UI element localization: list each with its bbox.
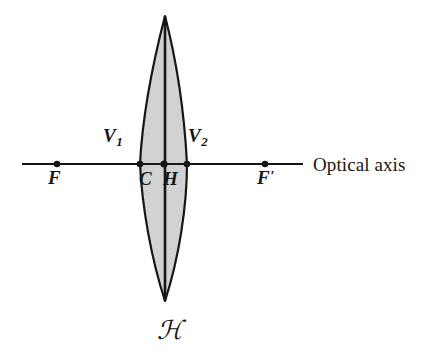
- point-dot-C: [160, 160, 167, 167]
- label-V1-subscript: 1: [116, 134, 123, 149]
- label-C-letter: C: [139, 168, 152, 189]
- label-center-C: C: [139, 169, 152, 188]
- diagram-canvas: [0, 0, 440, 359]
- label-vertex-v1: V1: [103, 126, 122, 145]
- label-principal-plane-script-h: ℋ: [157, 317, 183, 343]
- label-F-prime-letter: F: [257, 167, 270, 188]
- point-dot-V2: [184, 161, 191, 168]
- label-V2-subscript: 2: [201, 134, 208, 149]
- lens-shape: [140, 16, 187, 301]
- label-H-letter: H: [163, 168, 178, 189]
- label-focal-point-F-prime: F′: [257, 168, 274, 187]
- label-vertex-v2: V2: [188, 126, 207, 145]
- label-V1-letter: V: [103, 125, 116, 146]
- label-focal-point-F: F: [48, 168, 61, 187]
- label-principal-point-H: H: [163, 169, 178, 188]
- label-F-prime-mark: ′: [270, 168, 274, 184]
- label-V2-letter: V: [188, 125, 201, 146]
- label-optical-axis: Optical axis: [313, 155, 405, 174]
- optics-diagram-figure: F V1 C H V2 F′ Optical axis ℋ: [0, 0, 440, 359]
- point-dot-V1: [137, 161, 144, 168]
- label-F-letter: F: [48, 167, 61, 188]
